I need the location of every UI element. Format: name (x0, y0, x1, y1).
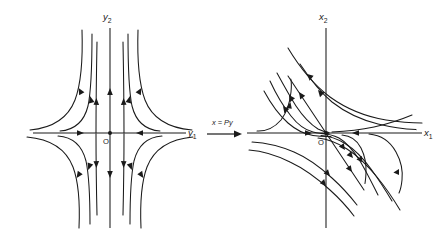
arrow-right-ll-inner (324, 169, 330, 176)
arrow-q3-inner (94, 161, 100, 168)
arrow-q4-mid (127, 163, 133, 170)
arrow-q4-inner (121, 161, 127, 168)
trajectory-q4-outer (141, 137, 193, 228)
trajectory-q3-inner (96, 134, 97, 215)
trajectory-q1-inner (123, 42, 124, 133)
traj-right-ur-inner (332, 115, 412, 132)
left-origin-dot (108, 131, 112, 135)
y1-axis-label: y1 (187, 127, 197, 140)
traj-right-ll-inner (252, 142, 357, 205)
left-origin-label: O (103, 137, 109, 146)
traj-right-hook-upper (257, 79, 291, 131)
arrow-right-hook-lower-outer (393, 169, 399, 175)
right-origin-label: O (318, 138, 324, 147)
x1-axis-label: x1 (423, 127, 433, 140)
trajectory-q1-mid (128, 34, 160, 131)
arrow-q2-inner (94, 98, 100, 105)
arrow-q3-mid (88, 163, 94, 170)
y2-axis-label: y2 (102, 11, 112, 24)
arrow-separatrix-up-outward (299, 92, 305, 99)
left-panel-y-phase-portrait: y2 y1 O (27, 11, 197, 228)
figure-root: y2 y1 O x = Py (0, 0, 448, 243)
traj-right-ll-outer (249, 150, 354, 216)
trajectory-q4-mid (130, 136, 162, 224)
trajectory-q3-outer (27, 137, 79, 228)
arrow-q1-inner (121, 98, 127, 105)
transformation-equation: x = Py (211, 118, 234, 127)
traj-right-hook-lower-outer (369, 134, 402, 193)
arrow-q2-outer (79, 88, 85, 95)
transformation-annotation: x = Py (207, 118, 242, 137)
x2-axis-label: x2 (318, 11, 328, 24)
traj-right-ur-outer (288, 48, 422, 123)
arrow-q4-outer (137, 171, 143, 178)
trajectory-q2-inner (96, 42, 97, 133)
traj-right-ul-inner (264, 91, 331, 137)
arrow-x1-right-inward (352, 130, 359, 136)
arrow-right-ll-outer (320, 179, 326, 186)
trajectory-q3-mid (58, 136, 90, 224)
trajectory-q1-outer (138, 30, 192, 130)
arrow-right-ur-outer (307, 74, 314, 81)
phase-portrait-figure: y2 y1 O x = Py (0, 0, 448, 243)
arrow-separatrix-down-outward (346, 165, 352, 172)
arrow-q1-outer (136, 88, 142, 95)
arrow-y2-down-outward (107, 171, 113, 178)
traj-right-lr-outer (318, 138, 400, 210)
transformation-arrow-head (234, 131, 242, 138)
arrow-right-ul-outer (289, 95, 295, 102)
arrow-y1-left-inward (77, 130, 84, 136)
trajectory-q2-outer (30, 30, 82, 130)
trajectory-q4-inner (123, 134, 124, 215)
arrow-y2-up-outward (107, 88, 113, 95)
traj-right-ul-outer (277, 73, 329, 133)
right-panel-x-phase-portrait: x2 x1 O (247, 11, 433, 228)
traj-right-lr-inner (321, 134, 378, 196)
arrow-q3-outer (77, 171, 83, 178)
arrow-y1-right-inward (136, 130, 143, 136)
